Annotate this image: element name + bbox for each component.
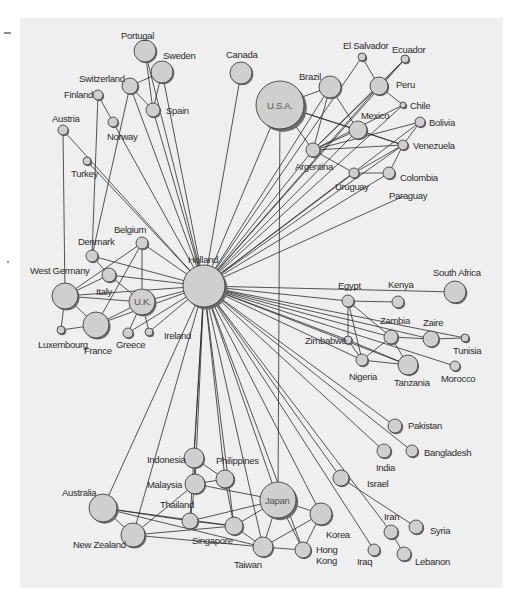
label-denmark: Denmark	[78, 236, 115, 247]
label-hong-kong-line2: Kong	[316, 555, 337, 566]
label-new-zealand: New Zealand	[73, 539, 126, 550]
node-circle	[89, 494, 117, 522]
node-circle	[52, 283, 78, 309]
node-circle	[136, 237, 148, 249]
node-circle	[384, 525, 398, 539]
label-mexico: Mexico	[361, 110, 389, 121]
label-tanzania: Tanzania	[394, 377, 431, 388]
node-circle	[86, 250, 98, 262]
label-malaysia: Malaysia	[147, 479, 183, 490]
node-circle	[415, 117, 425, 127]
label-uruguay: Uruguay	[335, 181, 369, 192]
label-brazil: Brazil	[299, 71, 321, 82]
margin-marks	[4, 33, 11, 262]
label-finland: Finland	[64, 89, 93, 100]
label-italy: Italy	[96, 286, 112, 297]
node-circle	[450, 361, 460, 371]
label-u-s-a: U.S.A.	[267, 100, 293, 111]
label-singapore: Singapore	[192, 535, 233, 546]
node-circle	[306, 143, 320, 157]
label-greece: Greece	[116, 339, 145, 350]
label-switzerland: Switzerland	[79, 73, 125, 84]
node-circle	[146, 103, 160, 117]
label-iraq: Iraq	[357, 556, 372, 567]
label-nigeria: Nigeria	[349, 371, 378, 382]
label-bangladesh: Bangladesh	[424, 447, 471, 458]
label-south-africa: South Africa	[433, 267, 482, 278]
node-circle	[185, 474, 205, 494]
label-norway: Norway	[107, 131, 138, 142]
label-colombia: Colombia	[400, 172, 439, 183]
label-hong-kong: Hong	[316, 544, 338, 555]
label-india: India	[376, 462, 396, 473]
label-zaire: Zaire	[423, 317, 443, 328]
label-el-salvador: El Salvador	[343, 40, 388, 51]
node-circle	[461, 334, 469, 342]
node-circle	[319, 76, 341, 98]
label-ireland: Ireland	[164, 330, 191, 341]
node-circle	[102, 268, 116, 282]
node-circle	[384, 330, 398, 344]
label-taiwan: Taiwan	[234, 559, 262, 570]
label-u-k: U.K.	[134, 296, 151, 307]
label-korea: Korea	[326, 529, 351, 540]
network-diagram: HollandU.S.A.CanadaPortugalSwedenSwitzer…	[0, 0, 520, 603]
node-circle	[342, 295, 354, 307]
label-holland: Holland	[188, 254, 218, 265]
node-circle	[230, 62, 252, 84]
node-circle	[182, 513, 198, 529]
label-venezuela: Venezuela	[413, 140, 456, 151]
label-spain: Spain	[166, 105, 189, 116]
label-lebanon: Lebanon	[415, 556, 450, 567]
node-circle	[184, 448, 204, 468]
node-circle	[377, 444, 391, 458]
node-circle	[401, 55, 409, 63]
label-pakistan: Pakistan	[408, 420, 442, 431]
node-circle	[358, 53, 366, 61]
node-circle	[370, 77, 388, 95]
label-morocco: Morocco	[441, 373, 475, 384]
label-zambia: Zambia	[380, 315, 411, 326]
node-circle	[423, 331, 439, 347]
node-circle	[392, 296, 404, 308]
label-canada: Canada	[226, 49, 258, 60]
label-egypt: Egypt	[338, 280, 361, 291]
label-indonesia: Indonesia	[147, 454, 187, 465]
label-peru: Peru	[396, 79, 415, 90]
node-circle	[123, 328, 133, 338]
node-circle	[383, 167, 395, 179]
node-circle	[134, 40, 156, 62]
label-west-germany: West Germany	[30, 265, 90, 276]
node-circle	[108, 117, 118, 127]
node-circle	[400, 102, 406, 108]
node-circle	[349, 168, 359, 178]
node-circle	[83, 157, 91, 165]
node-circle	[368, 544, 380, 556]
node-circle	[409, 520, 423, 534]
node-circle	[216, 470, 234, 488]
node-circle	[151, 61, 173, 83]
label-ecuador: Ecuador	[392, 44, 425, 55]
label-portugal: Portugal	[121, 30, 154, 41]
label-argentina: Argentina	[295, 161, 334, 172]
node-circle	[388, 419, 402, 433]
node-circle	[295, 542, 311, 558]
node-circle	[398, 355, 418, 375]
label-japan: Japan	[265, 495, 289, 506]
node-circle	[406, 445, 418, 457]
node-circle	[349, 121, 367, 139]
label-israel: Israel	[367, 478, 389, 489]
node-circle	[183, 265, 225, 307]
node-circle	[398, 140, 408, 150]
label-philippines: Philippines	[216, 455, 259, 466]
label-thailand: Thailand	[160, 499, 194, 510]
node-circle	[225, 517, 243, 535]
label-australia: Australia	[62, 487, 97, 498]
label-austria: Austria	[52, 113, 80, 124]
label-belgium: Belgium	[114, 224, 147, 235]
node-circle	[83, 312, 109, 338]
node-circle	[310, 503, 332, 525]
label-chile: Chile	[410, 100, 430, 111]
node-circle	[253, 537, 273, 557]
node-circle	[57, 326, 65, 334]
